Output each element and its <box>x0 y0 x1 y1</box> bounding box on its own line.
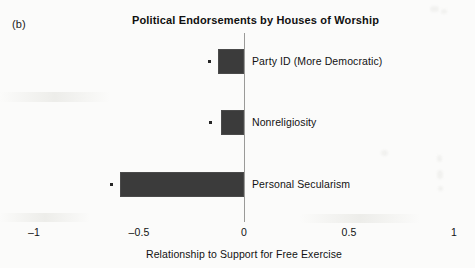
x-tick-label: 0 <box>241 226 247 238</box>
x-tick-label: –0.5 <box>129 226 150 238</box>
bar <box>218 49 244 74</box>
bar <box>221 110 244 135</box>
x-axis-title: Relationship to Support for Free Exercis… <box>146 248 342 260</box>
bar <box>120 172 244 197</box>
x-tick-label: 0.5 <box>342 226 357 238</box>
figure-panel-b: (b) Political Endorsements by Houses of … <box>0 0 475 268</box>
confidence-interval-dot <box>209 121 212 124</box>
category-label: Party ID (More Democratic) <box>252 55 382 67</box>
plot-area: Party ID (More Democratic)Nonreligiosity… <box>0 0 475 268</box>
confidence-interval-dot <box>208 60 211 63</box>
zero-reference-line <box>244 33 245 222</box>
confidence-interval-dot <box>110 183 113 186</box>
category-label: Nonreligiosity <box>252 116 316 128</box>
x-tick-label: –1 <box>28 226 40 238</box>
x-tick-label: 1 <box>451 226 457 238</box>
category-label: Personal Secularism <box>252 178 350 190</box>
